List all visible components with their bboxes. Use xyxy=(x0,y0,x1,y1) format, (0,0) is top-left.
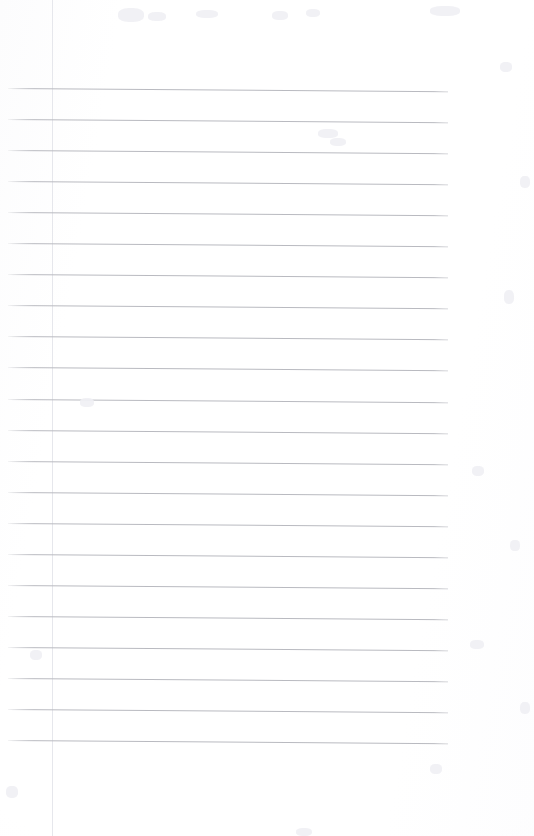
scan-speck xyxy=(148,12,166,21)
ruled-line xyxy=(8,367,448,371)
scan-speck xyxy=(472,466,484,476)
scan-speck xyxy=(318,129,338,138)
scan-speck xyxy=(504,290,514,304)
scan-speck xyxy=(196,10,218,18)
scan-speck xyxy=(306,9,320,17)
ruled-line xyxy=(8,430,448,434)
ruled-line xyxy=(8,399,448,403)
ruled-line xyxy=(8,554,448,558)
scan-seam-artifact xyxy=(52,0,53,836)
ruled-line xyxy=(8,647,448,651)
ruled-line xyxy=(8,150,448,154)
paper-surface xyxy=(0,0,534,836)
scan-speck xyxy=(430,764,442,774)
scan-speck xyxy=(520,176,530,188)
scanned-page xyxy=(0,0,534,836)
ruled-line xyxy=(8,181,448,185)
ruled-line xyxy=(8,678,448,682)
scan-speck xyxy=(118,8,144,22)
ruled-line xyxy=(8,585,448,589)
scan-speck xyxy=(330,138,346,146)
scan-vignette xyxy=(0,0,534,836)
scan-speck xyxy=(6,786,18,798)
ruled-line xyxy=(8,119,448,123)
ruled-line xyxy=(8,523,448,527)
scan-speck xyxy=(30,650,42,660)
scan-speck xyxy=(510,540,520,551)
ruled-line xyxy=(8,616,448,620)
ruled-line xyxy=(8,740,448,744)
scan-speck xyxy=(500,62,512,72)
scan-speck xyxy=(470,640,484,649)
scan-speck xyxy=(272,11,288,20)
scan-speck xyxy=(80,398,94,407)
scan-speck xyxy=(520,702,530,714)
ruled-line xyxy=(8,336,448,340)
ruled-line xyxy=(8,709,448,713)
scan-speck xyxy=(430,6,460,16)
ruled-line xyxy=(8,243,448,247)
ruled-line xyxy=(8,492,448,496)
scan-speck xyxy=(296,828,312,836)
ruled-lines-group xyxy=(0,0,534,836)
ruled-line xyxy=(8,274,448,278)
ruled-line xyxy=(8,305,448,309)
ruled-line xyxy=(8,212,448,216)
ruled-line xyxy=(8,461,448,465)
ruled-line xyxy=(8,88,448,92)
